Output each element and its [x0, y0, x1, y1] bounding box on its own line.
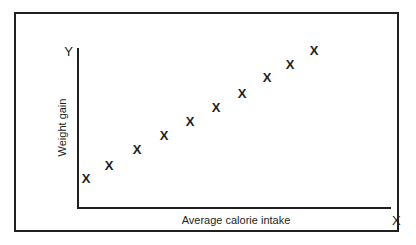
data-point-marker: X: [236, 87, 248, 100]
y-axis-title: Weight gain: [56, 48, 69, 208]
scatter-plot-figure: Y X Weight gain Average calorie intake X…: [0, 0, 416, 245]
data-point-marker: X: [80, 172, 92, 185]
data-point-marker: X: [103, 159, 115, 172]
data-point-marker: X: [210, 101, 222, 114]
data-point-marker: X: [261, 71, 273, 84]
data-point-marker: X: [131, 143, 143, 156]
x-axis-end-label: X: [392, 214, 406, 228]
data-point-marker: X: [308, 44, 320, 57]
x-axis-title: Average calorie intake: [126, 214, 346, 227]
data-point-marker: X: [184, 115, 196, 128]
y-axis-line: [77, 48, 79, 209]
figure-border: Y X Weight gain Average calorie intake X…: [14, 12, 399, 232]
x-axis-line: [77, 207, 391, 209]
data-point-marker: X: [284, 58, 296, 71]
data-point-marker: X: [158, 129, 170, 142]
